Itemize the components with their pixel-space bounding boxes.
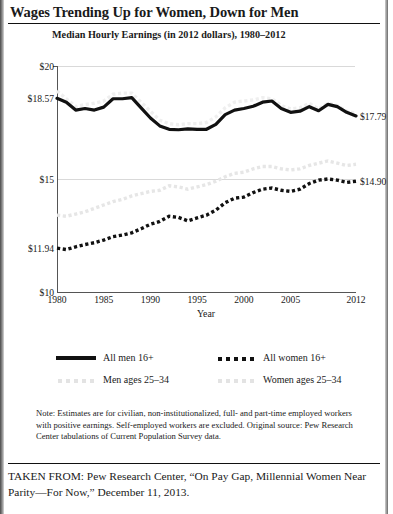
page-edge-right [385,0,388,514]
x-tick-label: 1995 [188,294,207,305]
legend-swatch-solid-icon [56,356,96,360]
source-attribution: TAKEN FROM: Pew Research Center, “On Pay… [8,468,380,500]
legend-swatch-dotted-light2-icon [216,376,256,384]
legend-label-men-2534: Men ages 25–34 [103,374,169,385]
plot-area [57,66,355,292]
series-paths [57,66,356,292]
x-tick-label: 2005 [281,294,300,305]
x-tick-label: 2012 [346,294,365,305]
series-end-label: $14.90 [360,176,386,187]
y-tick-label: $18.57 [28,93,54,104]
series-line [57,179,356,250]
x-axis-title: Year [57,308,355,319]
y-tick-label: $20 [40,61,54,72]
legend-item-women-2534: Women ages 25–34 [216,374,342,385]
legend-item-men-all: All men 16+ [56,352,154,363]
note-divider [8,463,380,464]
chart-subtitle: Median Hourly Earnings (in 2012 dollars)… [52,28,382,42]
chart-legend: All men 16+ Men ages 25–34 All women 16+… [12,348,384,396]
x-tick-label: 1985 [94,294,113,305]
legend-swatch-dotted-dark-icon [216,354,256,362]
page-edge-left [0,0,4,514]
page-title: Wages Trending Up for Women, Down for Me… [10,2,370,22]
chart-note: Note: Estimates are for civilian, non-in… [36,408,366,443]
x-tick-label: 1990 [141,294,160,305]
legend-label-women-all: All women 16+ [263,352,326,363]
series-end-label: $17.79 [360,110,386,121]
legend-item-women-all: All women 16+ [216,352,326,363]
title-divider [8,23,380,24]
y-tick-label: $15 [40,174,54,185]
legend-item-men-2534: Men ages 25–34 [56,374,169,385]
legend-label-women-2534: Women ages 25–34 [263,374,342,385]
y-tick-label: $10 [40,287,54,298]
legend-swatch-dotted-light-icon [56,376,96,384]
x-axis-line [57,292,356,293]
legend-label-men-all: All men 16+ [103,352,154,363]
y-tick-label: $11.94 [28,243,54,254]
series-line [57,161,356,216]
chart-figure: 1980198519901995200020052012 Year $20$18… [12,58,384,308]
x-tick-label: 2000 [234,294,253,305]
